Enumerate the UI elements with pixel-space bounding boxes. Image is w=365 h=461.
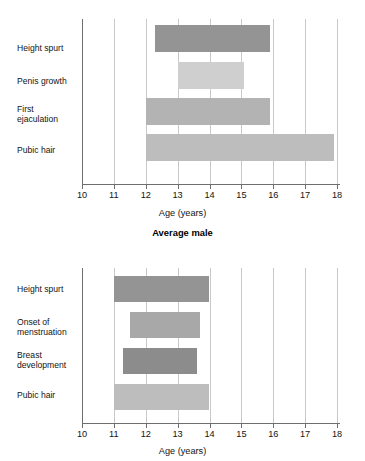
tick-label-13: 13: [166, 429, 190, 439]
category-label-height-spurt: Height spurt: [17, 43, 79, 53]
tick-label-16: 16: [261, 429, 285, 439]
x-axis-title-female: Age (years): [0, 446, 365, 456]
tick-label-11: 11: [102, 190, 126, 200]
category-label-f-height-spurt: Height spurt: [17, 284, 79, 294]
gridline-18: [337, 19, 338, 185]
tick-label-14: 14: [198, 429, 222, 439]
gridline-15: [241, 268, 242, 424]
category-label-pubic-hair: Pubic hair: [17, 145, 79, 155]
category-label-onset-menstruation-line1: Onset of: [17, 317, 79, 327]
tick-label-18: 18: [325, 190, 349, 200]
plot-area-female: [82, 268, 337, 424]
gridline-16: [273, 268, 274, 424]
y-axis-line: [82, 19, 83, 185]
tick-label-16: 16: [261, 190, 285, 200]
gridline-17: [305, 268, 306, 424]
bar-female-3: [114, 384, 210, 410]
category-label-penis-growth: Penis growth: [17, 76, 79, 86]
plot-area-male: [82, 19, 337, 185]
bar-female-2: [123, 348, 196, 374]
tick-label-14: 14: [198, 190, 222, 200]
bar-male-1: [178, 62, 245, 89]
figure-caption-average-male: Average male: [0, 227, 365, 238]
bar-male-0: [155, 25, 270, 52]
chart-average-female: Height spurt Onset of menstruation Breas…: [0, 240, 365, 461]
category-label-breast-development-line1: Breast: [17, 350, 79, 360]
tick-label-17: 17: [293, 429, 317, 439]
tick-label-10: 10: [70, 429, 94, 439]
category-label-onset-menstruation-line2: menstruation: [17, 327, 79, 337]
category-label-breast-development-line2: development: [17, 360, 79, 370]
tick-label-15: 15: [229, 190, 253, 200]
tick-label-17: 17: [293, 190, 317, 200]
bar-male-2: [146, 98, 270, 125]
category-label-f-pubic-hair: Pubic hair: [17, 390, 79, 400]
bar-male-3: [146, 134, 334, 161]
tick-label-18: 18: [325, 429, 349, 439]
category-label-first-ejaculation-line2: ejaculation: [17, 114, 79, 124]
gridline-14: [210, 268, 211, 424]
tick-label-11: 11: [102, 429, 126, 439]
tick-label-15: 15: [229, 429, 253, 439]
x-axis-ticks-female: 10 11 12 13 14 15 16 17 18: [82, 424, 337, 438]
bar-female-0: [114, 276, 210, 302]
category-label-first-ejaculation-line1: First: [17, 104, 79, 114]
x-axis-ticks-male: 10 11 12 13 14 15 16 17 18: [82, 185, 337, 199]
y-axis-line: [82, 268, 83, 424]
tick-label-12: 12: [134, 190, 158, 200]
chart-average-male: Height spurt Penis growth First ejaculat…: [0, 0, 365, 240]
tick-label-10: 10: [70, 190, 94, 200]
bar-female-1: [130, 312, 200, 338]
tick-label-13: 13: [166, 190, 190, 200]
gridline-18: [337, 268, 338, 424]
gridline-11: [114, 19, 115, 185]
tick-label-12: 12: [134, 429, 158, 439]
x-axis-title-male: Age (years): [0, 208, 365, 218]
